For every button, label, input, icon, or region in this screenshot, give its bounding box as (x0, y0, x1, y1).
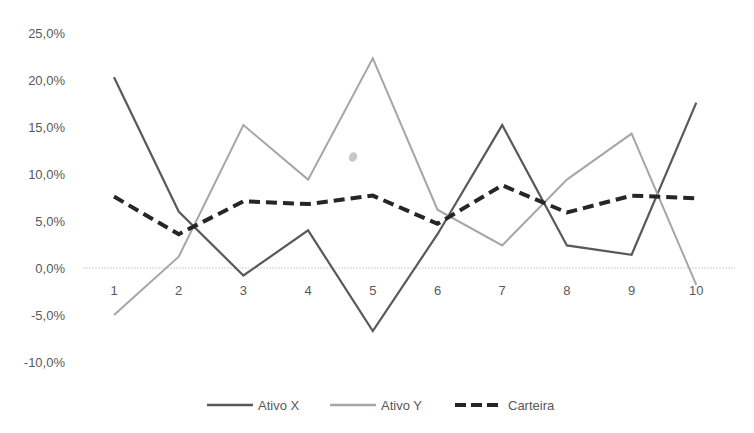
legend-label: Carteira (508, 398, 555, 413)
series-line-ativo-y (114, 58, 696, 315)
y-tick-label: -10,0% (24, 355, 66, 370)
legend: Ativo XAtivo YCarteira (207, 398, 555, 413)
y-axis: 25,0%20,0%15,0%10,0%5,0%0,0%-5,0%-10,0% (24, 26, 66, 370)
x-tick-label: 3 (240, 283, 247, 298)
y-tick-label: 25,0% (28, 26, 65, 41)
y-tick-label: -5,0% (31, 308, 65, 323)
x-axis: 12345678910 (110, 283, 703, 298)
y-tick-label: 5,0% (35, 214, 65, 229)
x-tick-label: 6 (434, 283, 441, 298)
smudge-artifact (347, 151, 358, 163)
legend-item-ativo-y: Ativo Y (330, 398, 422, 413)
legend-label: Ativo Y (381, 398, 422, 413)
plot-area (114, 58, 696, 331)
x-tick-label: 10 (689, 283, 703, 298)
y-tick-label: 0,0% (35, 261, 65, 276)
series-line-ativo-x (114, 77, 696, 331)
y-tick-label: 15,0% (28, 120, 65, 135)
x-tick-label: 4 (304, 283, 311, 298)
x-tick-label: 7 (499, 283, 506, 298)
x-tick-label: 1 (110, 283, 117, 298)
x-tick-label: 9 (628, 283, 635, 298)
y-tick-label: 10,0% (28, 167, 65, 182)
x-tick-label: 8 (563, 283, 570, 298)
legend-item-ativo-x: Ativo X (207, 398, 300, 413)
y-tick-label: 20,0% (28, 73, 65, 88)
legend-item-carteira: Carteira (455, 398, 555, 413)
legend-label: Ativo X (258, 398, 300, 413)
x-tick-label: 5 (369, 283, 376, 298)
x-tick-label: 2 (175, 283, 182, 298)
line-chart: 25,0%20,0%15,0%10,0%5,0%0,0%-5,0%-10,0% … (0, 0, 754, 433)
